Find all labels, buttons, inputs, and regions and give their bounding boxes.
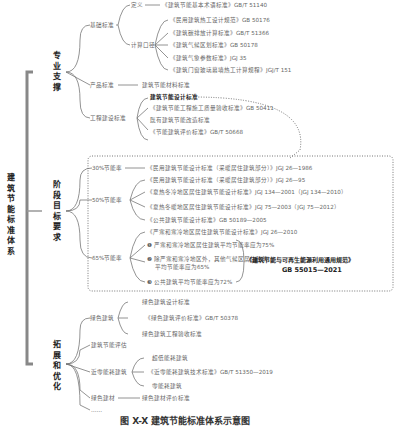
leaf: 零能耗建筑 xyxy=(152,383,182,390)
node-near-zero: 近零能耗建筑 xyxy=(91,369,127,376)
node-30-percent: 30%节能率 xyxy=(92,165,122,172)
leaf: 平均节能率应为65% xyxy=(155,264,209,271)
leaf: 《近零能耗建筑技术标准》GB/T 51350—2019 xyxy=(148,369,273,376)
node-basic-standards: 基础标准 xyxy=(90,22,114,29)
leaf: ❶ 严寒和寒冷地区居住建筑平均节能率应为75% xyxy=(147,242,274,249)
leaf: 《建筑气候区划标准》GB 50178 xyxy=(170,42,258,49)
leaf: 超低能耗建筑 xyxy=(152,355,188,362)
leaf-design-standard: 建筑节能设计标准 xyxy=(150,94,198,101)
node-green-building: 绿色建筑 xyxy=(90,315,114,322)
figure-caption: 图 X-X 建筑节能标准体系示意图 xyxy=(120,414,250,426)
leaf: 《严寒和寒冷地区居住建筑节能设计标准》JGJ 26—2010 xyxy=(147,229,297,236)
leaf: 《民用建筑热工设计规范》GB 50176 xyxy=(170,17,270,24)
leaf: 绿色建筑工程验收标准 xyxy=(142,331,202,338)
callout-code: GB 55015—2021 xyxy=(282,267,342,274)
leaf: 《建筑节能基本术语标准》GB/T 51140 xyxy=(162,2,267,9)
node-green-materials: 绿色建材 xyxy=(91,395,115,402)
node-calc-scope: 计算口径 xyxy=(131,42,155,49)
node-50-percent: 50%节能率 xyxy=(92,197,122,204)
node-engineering-standards: 工程建设标准 xyxy=(90,115,126,122)
leaf: 《建筑气象参数标准》JGJ 35 xyxy=(170,55,247,62)
leaf: ❸ 公共建筑平均节能率应为72% xyxy=(147,279,232,286)
leaf: 《建筑门窗玻璃幕墙热工计算规程》JGJ/T 151 xyxy=(170,67,291,74)
leaf: 《节能建筑评价标准》GB/T 50668 xyxy=(150,129,243,136)
branch-title-support: 专业支撑 xyxy=(52,51,62,93)
root-title: 建筑节能标准体系 xyxy=(6,173,16,257)
leaf: 建筑节能材料标准 xyxy=(142,82,190,89)
node-ellipsis: …… xyxy=(91,407,102,414)
leaf: 绿色建材评价标准 xyxy=(142,395,190,402)
leaf: 《公共建筑节能设计标准》GB 50189—2005 xyxy=(147,217,267,224)
leaf: 既有建筑节能改造标准 xyxy=(150,117,210,124)
leaf: 《夏热冬冷地区居住建筑节能设计标准》JGJ 134—2001（JGJ 134—2… xyxy=(147,189,347,196)
branch-title-expand: 拓展和优化 xyxy=(52,340,62,393)
leaf: 《建筑节能工程施工质量验收标准》GB 50411 xyxy=(150,105,274,112)
leaf: 《夏热冬暖地区居住建筑节能设计标准》JGJ 75—2003（JGJ 75—201… xyxy=(147,204,340,211)
node-energy-assessment: 建筑节能评估 xyxy=(91,342,127,349)
node-65-percent: 65%节能率 xyxy=(92,255,122,262)
node-product-standards: 产品标准 xyxy=(90,82,114,89)
leaf: 《民用建筑节能设计标准（采暖居住建筑部分）》JGJ 26—95 xyxy=(147,177,305,184)
leaf: 《绿色建筑评价标准》GB/T 50378 xyxy=(145,315,238,322)
node-definition: 定义 xyxy=(131,2,143,9)
leaf: 绿色建筑设计标准 xyxy=(142,299,190,306)
leaf: 《民用建筑节能设计标准（采暖居住建筑部分）》JGJ 26—1986 xyxy=(147,165,312,172)
leaf: 《建筑碳排放计算标准》GB/T 51366 xyxy=(170,30,269,37)
branch-title-stage: 阶段目标要求 xyxy=(52,180,62,243)
callout-title: 《建筑节能与可再生能源利用通用规范》 xyxy=(246,256,354,263)
